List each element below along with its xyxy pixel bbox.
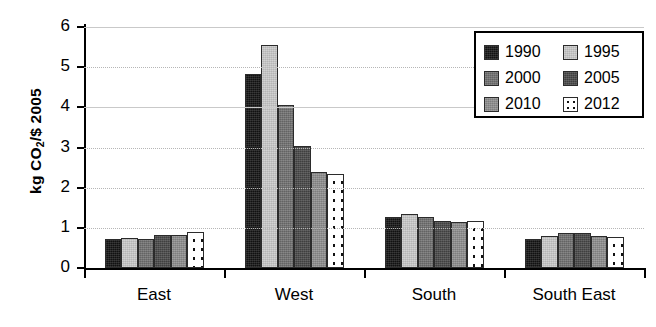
bar-2000-east: [138, 239, 155, 268]
legend-item-1990[interactable]: 1990: [484, 44, 563, 60]
x-axis-tick-mark: [224, 270, 226, 278]
legend-swatch-1995-icon: [563, 45, 578, 60]
y-axis-tick-mark: [77, 106, 84, 108]
y-axis-tick-mark: [77, 66, 84, 68]
y-axis-title-suffix: /$ 2005: [27, 88, 44, 141]
x-axis-label-east: East: [84, 285, 224, 305]
bar-2012-south-east: [607, 237, 624, 268]
y-axis-tick-label: 3: [44, 137, 70, 157]
gridline: [84, 148, 644, 149]
legend-label-2010: 2010: [505, 96, 541, 112]
bar-2005-south-east: [574, 233, 591, 268]
y-axis-tick-label: 6: [44, 16, 70, 36]
bar-2005-east: [154, 235, 171, 268]
bar-1995-south-east: [541, 236, 558, 268]
x-axis-tick-mark: [84, 270, 86, 278]
y-axis-tick-label: 1: [44, 217, 70, 237]
x-axis-label-west: West: [224, 285, 364, 305]
bar-2000-south: [418, 217, 435, 268]
y-axis-tick-mark: [77, 267, 84, 269]
legend-item-2010[interactable]: 2010: [484, 96, 563, 112]
legend-item-2012[interactable]: 2012: [563, 96, 642, 112]
x-axis-label-south: South: [364, 285, 504, 305]
legend: 1990 1995 2000 2005 2010: [474, 31, 644, 118]
bar-1995-south: [401, 214, 418, 268]
y-axis-title: kg CO2/$ 2005: [27, 41, 45, 241]
bar-2012-east: [187, 232, 204, 268]
legend-swatch-2000-icon: [484, 71, 499, 86]
bar-chart: kg CO2/$ 2005 0123456 EastWestSouthSouth…: [0, 0, 656, 327]
legend-label-2000: 2000: [505, 70, 541, 86]
bar-1990-east: [105, 239, 122, 268]
bar-1990-west: [245, 74, 262, 268]
legend-swatch-2010-icon: [484, 97, 499, 112]
x-axis-tick-mark: [364, 270, 366, 278]
bar-1995-west: [261, 45, 278, 268]
bar-2005-west: [294, 146, 311, 269]
bar-1990-south-east: [525, 239, 542, 268]
y-axis-tick-mark: [77, 26, 84, 28]
legend-label-2012: 2012: [584, 96, 620, 112]
gridline: [84, 188, 644, 189]
legend-swatch-2005-icon: [563, 71, 578, 86]
bar-2010-east: [171, 235, 188, 268]
y-axis-tick-label: 4: [44, 96, 70, 116]
x-axis-label-south-east: South East: [504, 285, 644, 305]
y-axis-tick-mark: [77, 227, 84, 229]
gridline: [84, 27, 644, 28]
bar-2000-west: [278, 105, 295, 268]
bar-2000-south-east: [558, 233, 575, 268]
y-axis-tick-label: 5: [44, 56, 70, 76]
x-axis-tick-mark: [644, 270, 646, 278]
legend-row: 1990 1995: [484, 39, 642, 65]
legend-item-1995[interactable]: 1995: [563, 44, 642, 60]
y-axis-tick-mark: [77, 187, 84, 189]
x-axis-tick-mark: [504, 270, 506, 278]
y-axis-tick-label: 2: [44, 177, 70, 197]
legend-swatch-2012-icon: [563, 97, 578, 112]
legend-row: 2000 2005: [484, 65, 642, 91]
legend-label-2005: 2005: [584, 70, 620, 86]
legend-row: 2010 2012: [484, 91, 642, 117]
bar-1990-south: [385, 217, 402, 268]
bar-1995-east: [121, 238, 138, 268]
y-axis-title-prefix: kg CO: [27, 147, 44, 194]
legend-item-2005[interactable]: 2005: [563, 70, 642, 86]
legend-swatch-1990-icon: [484, 45, 499, 60]
legend-label-1995: 1995: [584, 44, 620, 60]
y-axis-tick-mark: [77, 147, 84, 149]
bar-2010-west: [311, 172, 328, 268]
legend-item-2000[interactable]: 2000: [484, 70, 563, 86]
legend-label-1990: 1990: [505, 44, 541, 60]
bar-2010-south-east: [591, 236, 608, 268]
y-axis-tick-label: 0: [44, 257, 70, 277]
gridline: [84, 228, 644, 229]
